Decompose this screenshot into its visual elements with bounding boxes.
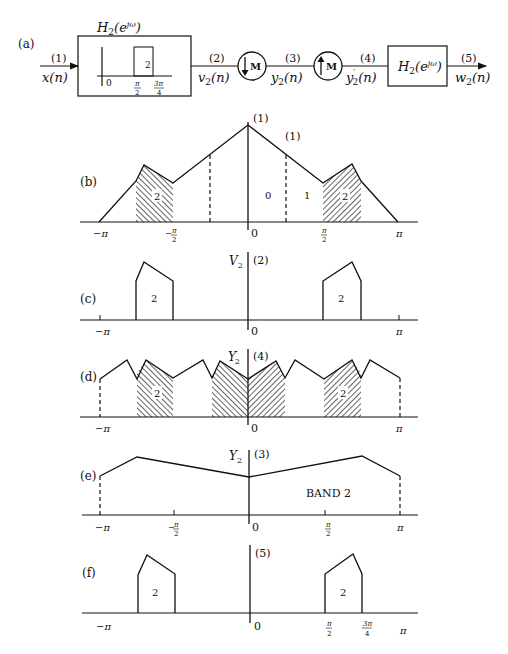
panel-c-spectrum-v2: (c) V2 (2) 2 2 −π 0 π <box>80 252 418 338</box>
tick-zero: 0 <box>254 620 261 633</box>
tick-minus-pi2-num: π <box>173 521 179 529</box>
tick-zero: 0 <box>251 227 258 240</box>
tick-pi2-den: 2 <box>322 236 326 244</box>
tick-minus-pi2-num: π <box>171 227 177 235</box>
tick-pi2-den: 2 <box>327 630 331 638</box>
y2prime-signal-label: y′2(n) <box>345 68 377 87</box>
filter-1-tick-pi2-den: 2 <box>135 89 139 97</box>
node-4-label: (4) <box>360 52 376 65</box>
band-label-2-neg: 2 <box>152 587 158 598</box>
band-label-2-neg: 2 <box>154 191 160 202</box>
tick-pi2-num: π <box>321 227 327 235</box>
node-5-label: (5) <box>461 52 477 65</box>
filter-1-tick-3pi4-den: 4 <box>157 89 162 97</box>
downsampler-factor: M <box>250 61 261 72</box>
tick-zero: 0 <box>251 325 258 338</box>
shaded-band-3 <box>248 361 285 417</box>
band-label-2-pos: 2 <box>340 587 346 598</box>
panel-d-spectrum-y2prime: (d) Y′2 (4) 2 2 −π 0 π <box>80 349 418 435</box>
filter-2-title: H2(ejω) <box>397 59 442 76</box>
panel-a-label: (a) <box>18 37 35 51</box>
v2-signal-label: v2(n) <box>198 70 230 87</box>
filter-1-title: H2(ejω) <box>96 20 141 37</box>
node-5-marker: (5) <box>255 547 271 560</box>
tick-minus-pi: −π <box>95 522 110 533</box>
band-label-2-neg: 2 <box>151 293 157 304</box>
band-2-neg-pulse <box>138 555 175 613</box>
node-3-label: (3) <box>285 52 301 65</box>
tick-minus-pi: −π <box>95 326 110 337</box>
tick-pi: π <box>395 228 403 239</box>
aliased-spectrum-curve <box>100 456 400 477</box>
upsampler-factor: M <box>326 61 337 72</box>
input-signal-label: x(n) <box>42 70 68 85</box>
node-1-label: (1) <box>51 52 67 65</box>
panel-b-spectrum-x: (b) (1) (1) 2 0 1 2 −π − π 2 0 π 2 π <box>80 112 418 244</box>
tick-pi: π <box>396 522 404 533</box>
filter-1-tick-pi2-num: π <box>134 80 140 88</box>
tick-pi2-num: π <box>325 521 331 529</box>
tick-minus-pi: −π <box>95 423 110 434</box>
band-label-2-pos: 2 <box>340 388 346 399</box>
y2prime-axis-label: Y′2 <box>228 349 240 366</box>
tick-zero: 0 <box>251 422 258 435</box>
band-2-pos-pulse <box>325 554 362 613</box>
tick-pi: π <box>399 625 407 636</box>
panel-e-spectrum-y2: (e) Y2 (3) BAND 2 −π − π 2 0 π 2 π <box>80 448 418 538</box>
band-label-2-pos: 2 <box>342 191 348 202</box>
node-1-marker: (1) <box>253 112 269 125</box>
node-3-marker: (3) <box>254 448 270 461</box>
panel-d-label: (d) <box>80 370 97 384</box>
band-2-pos-pulse <box>323 262 361 320</box>
tick-zero: 0 <box>252 521 259 534</box>
tick-pi: π <box>395 423 403 434</box>
w2-signal-label: w2(n) <box>455 70 490 87</box>
filter-1-tick-3pi4-num: 3π <box>154 80 163 88</box>
filter-1-gain: 2 <box>145 60 151 70</box>
tick-pi2-den: 2 <box>326 530 330 538</box>
shaded-band-2 <box>212 361 248 417</box>
band-label-0: 0 <box>265 190 271 201</box>
tick-pi2-num: π <box>326 620 332 628</box>
band-label-2-neg: 2 <box>154 388 160 399</box>
panel-c-label: (c) <box>80 292 96 306</box>
node-4-marker: (4) <box>253 350 269 363</box>
y2-axis-label: Y2 <box>229 449 242 465</box>
panel-a-block-diagram: (a) (1) x(n) H2(ejω) 2 0 π 2 3π 4 (2) v2… <box>18 20 490 97</box>
node-1-marker-2: (1) <box>285 130 301 143</box>
band-label-1: 1 <box>304 190 310 201</box>
node-2-marker: (2) <box>253 254 269 267</box>
tick-minus-pi: −π <box>96 621 111 632</box>
band-2-annotation: BAND 2 <box>306 487 351 500</box>
y2-signal-label: y2(n) <box>270 70 303 87</box>
tick-minus-pi2-den: 2 <box>172 236 176 244</box>
node-2-label: (2) <box>209 52 225 65</box>
panel-e-label: (e) <box>80 469 96 483</box>
tick-minus-pi: −π <box>93 228 108 239</box>
tick-pi: π <box>395 326 403 337</box>
panel-f-label: (f) <box>82 566 96 580</box>
tick-3pi4-den: 4 <box>365 630 370 638</box>
v2-axis-label: V2 <box>229 254 243 270</box>
tick-minus-pi2-den: 2 <box>174 530 178 538</box>
panel-f-spectrum-w2: (f) (5) 2 2 −π 0 π 2 3π 4 π <box>82 545 418 638</box>
tick-3pi4-num: 3π <box>363 620 372 628</box>
tick-minus-pi2-sign: − <box>165 229 172 238</box>
band-2-neg-pulse <box>136 262 173 320</box>
panel-b-label: (b) <box>80 175 97 189</box>
filter-1-tick-0: 0 <box>106 78 112 88</box>
multirate-filterbank-diagram: (a) (1) x(n) H2(ejω) 2 0 π 2 3π 4 (2) v2… <box>0 0 508 654</box>
band-label-2-pos: 2 <box>338 293 344 304</box>
